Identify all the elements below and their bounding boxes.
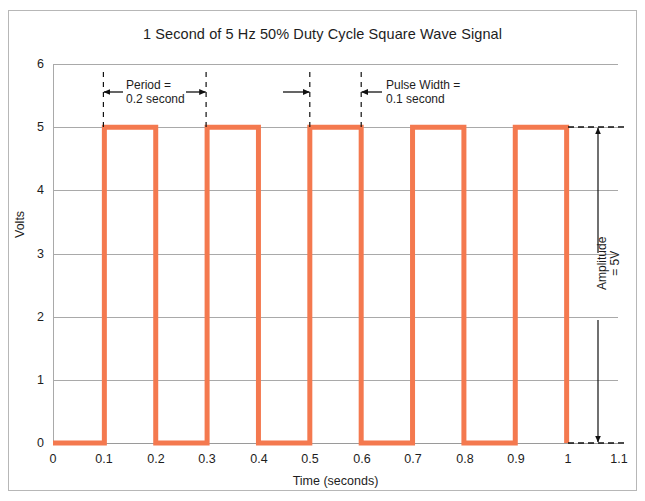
y-tick-label-2: 2 (18, 310, 44, 324)
waveform-polyline (53, 127, 567, 443)
y-tick-label-4: 4 (18, 183, 44, 197)
x-tick-label-0-8: 0.8 (442, 452, 488, 466)
x-tick-label-0-7: 0.7 (390, 452, 436, 466)
x-axis-title: Time (seconds) (53, 474, 618, 488)
amplitude-annotation-label: Amplitude = 5V (596, 237, 622, 290)
x-tick-label-0-9: 0.9 (493, 452, 539, 466)
y-tick-label-0: 0 (18, 436, 44, 450)
x-tick-label-1: 1 (545, 452, 591, 466)
y-tick-label-1: 1 (18, 373, 44, 387)
square-wave-trace (53, 64, 625, 446)
x-tick-label-0-6: 0.6 (339, 452, 385, 466)
x-tick-label-0-5: 0.5 (287, 452, 333, 466)
y-axis-title: Volts (13, 211, 27, 238)
pulse-width-annotation-label: Pulse Width = 0.1 second (386, 78, 460, 106)
chart-title: 1 Second of 5 Hz 50% Duty Cycle Square W… (8, 26, 637, 42)
chart-figure: 1 Second of 5 Hz 50% Duty Cycle Square W… (0, 0, 645, 501)
y-tick-label-3: 3 (18, 247, 44, 261)
y-tick-label-5: 5 (18, 120, 44, 134)
period-annotation-label: Period = 0.2 second (126, 78, 185, 106)
y-tick-label-6: 6 (18, 57, 44, 71)
x-tick-label-0-4: 0.4 (236, 452, 282, 466)
x-tick-label-0-1: 0.1 (81, 452, 127, 466)
x-tick-label-1-1: 1.1 (596, 452, 642, 466)
x-tick-label-0-2: 0.2 (133, 452, 179, 466)
x-tick-label-0: 0 (30, 452, 76, 466)
x-tick-label-0-3: 0.3 (184, 452, 230, 466)
